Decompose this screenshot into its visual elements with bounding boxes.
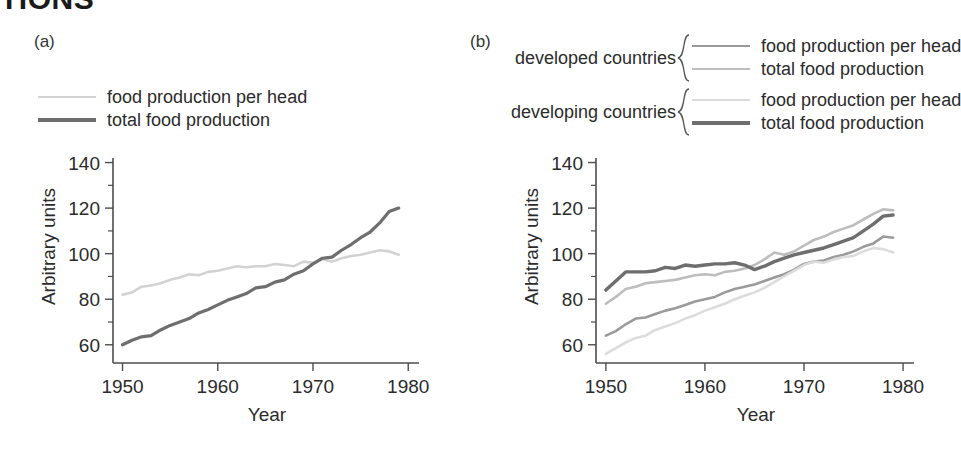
y-tick-label: 100 — [551, 244, 583, 265]
legend-item-label: total food production — [761, 58, 924, 81]
y-tick-label: 120 — [551, 198, 583, 219]
x-tick-label: 1970 — [292, 376, 334, 397]
legend-group-label: developed countries — [488, 48, 676, 69]
legend-line-swatch — [692, 89, 750, 112]
legend-item[interactable]: food production per head — [38, 86, 307, 109]
y-axis-title: Arbitrary units — [521, 188, 542, 305]
y-tick-label: 140 — [68, 153, 100, 174]
y-tick-label: 100 — [68, 244, 100, 265]
series-line — [606, 248, 893, 354]
x-tick-label: 1960 — [684, 376, 726, 397]
legend-line-swatch — [38, 109, 96, 132]
x-tick-label: 1950 — [101, 376, 143, 397]
x-tick-label: 1980 — [882, 376, 924, 397]
y-tick-label: 120 — [68, 198, 100, 219]
curly-brace-icon — [676, 87, 692, 137]
legend-item-label: food production per head — [107, 86, 307, 109]
legend-item[interactable]: total food production — [692, 112, 961, 135]
panel-b: (b) developed countriesfood production p… — [470, 0, 940, 453]
legend-group-items: food production per headtotal food produ… — [692, 35, 961, 81]
legend-line-swatch — [692, 112, 750, 135]
legend-item[interactable]: total food production — [692, 58, 961, 81]
legend-item-label: total food production — [107, 109, 270, 132]
series-line — [123, 208, 399, 345]
x-tick-label: 1980 — [387, 376, 429, 397]
legend-line-swatch — [692, 35, 750, 58]
legend-item-label: total food production — [761, 112, 924, 135]
x-axis-title: Year — [248, 404, 287, 425]
legend-item[interactable]: food production per head — [692, 89, 961, 112]
y-tick-label: 80 — [79, 289, 100, 310]
legend-line-swatch — [692, 58, 750, 81]
legend-group-label: developing countries — [488, 102, 676, 123]
legend-group: developed countriesfood production per h… — [488, 33, 961, 83]
x-tick-label: 1950 — [585, 376, 627, 397]
x-axis-title: Year — [737, 404, 776, 425]
legend-group: developing countriesfood production per … — [488, 87, 961, 137]
x-tick-label: 1970 — [783, 376, 825, 397]
y-axis-title: Arbitrary units — [38, 188, 59, 305]
y-tick-label: 80 — [562, 289, 583, 310]
legend-item[interactable]: total food production — [38, 109, 307, 132]
legend-item-label: food production per head — [761, 89, 961, 112]
panel-a: (a) food production per headtotal food p… — [0, 0, 470, 453]
y-tick-label: 60 — [562, 335, 583, 356]
legend-group-items: food production per headtotal food produ… — [692, 89, 961, 135]
curly-brace-icon — [676, 33, 692, 83]
legend-line-swatch — [38, 86, 96, 109]
legend-item[interactable]: food production per head — [692, 35, 961, 58]
y-tick-label: 140 — [551, 153, 583, 174]
panel-b-legend: developed countriesfood production per h… — [488, 33, 961, 137]
x-tick-label: 1960 — [197, 376, 239, 397]
legend-item-label: food production per head — [761, 35, 961, 58]
panel-a-plot: 60801001201401950196019701980YearArbitra… — [0, 150, 470, 450]
panel-b-plot: 60801001201401950196019701980YearArbitra… — [470, 150, 940, 450]
series-line — [606, 237, 893, 336]
panel-a-legend: food production per headtotal food produ… — [38, 86, 307, 132]
y-tick-label: 60 — [79, 335, 100, 356]
panel-a-label: (a) — [34, 32, 55, 52]
